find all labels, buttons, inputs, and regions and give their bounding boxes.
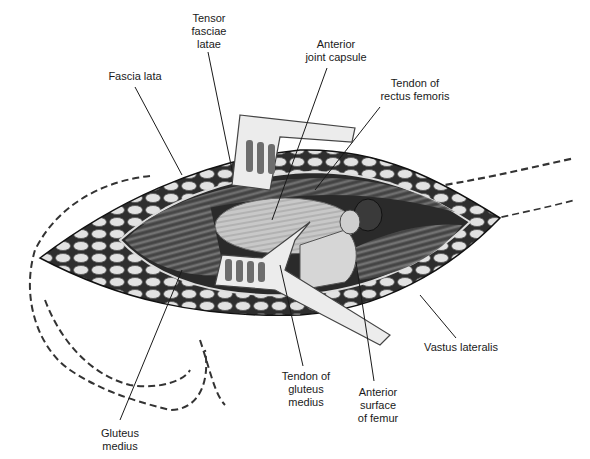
label-line: gluteus [275,383,337,396]
label-line: fasciae [174,25,244,38]
label-line: Fascia lata [100,70,170,83]
label-line: medius [92,440,148,453]
label-line: Vastus lateralis [416,341,506,354]
label-tendon-rectus-femoris: Tendon of rectus femoris [370,77,460,103]
label-tendon-gluteus-medius: Tendon of gluteus medius [275,370,337,409]
label-line: Tendon of [370,77,460,90]
bone-head [340,210,360,234]
label-anterior-joint-capsule: Anterior joint capsule [296,38,376,64]
label-line: joint capsule [296,51,376,64]
label-tensor-fasciae-latae: Tensor fasciae latae [174,12,244,51]
label-anterior-surface-femur: Anterior surface of femur [352,386,404,425]
label-line: Tensor [174,12,244,25]
label-line: Tendon of [275,370,337,383]
label-line: of femur [352,412,404,425]
label-line: Anterior [296,38,376,51]
label-gluteus-medius: Gluteus medius [92,427,148,453]
label-fascia-lata: Fascia lata [100,70,170,83]
label-vastus-lateralis: Vastus lateralis [416,341,506,354]
label-line: rectus femoris [370,90,460,103]
label-line: latae [174,38,244,51]
label-line: Gluteus [92,427,148,440]
label-line: Anterior [352,386,404,399]
label-line: medius [275,396,337,409]
label-line: surface [352,399,404,412]
